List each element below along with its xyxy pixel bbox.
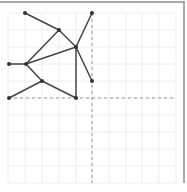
graph-node — [23, 11, 27, 15]
graph-node — [90, 79, 94, 83]
graph-node — [74, 45, 78, 49]
graph-node — [90, 11, 94, 15]
graph-node — [7, 62, 11, 66]
graph-edge — [26, 64, 42, 81]
graph-diagram — [0, 0, 187, 192]
graph-node — [40, 79, 44, 83]
graph-edge — [59, 30, 76, 47]
diagram-canvas — [0, 0, 187, 192]
graph-node — [57, 28, 61, 32]
edges — [9, 13, 92, 98]
graph-node — [7, 96, 11, 100]
graph-node — [74, 96, 78, 100]
graph-node — [24, 62, 28, 66]
